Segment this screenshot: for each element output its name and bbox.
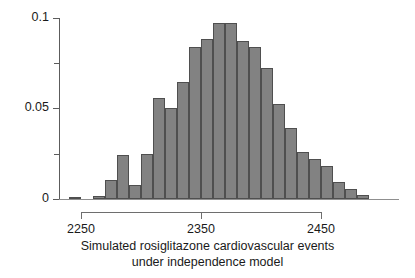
histogram-bar: [309, 159, 321, 199]
histogram-bar: [153, 98, 165, 199]
histogram-bar: [117, 155, 129, 199]
x-axis-label-2350: 2350: [171, 222, 231, 236]
y-axis-line: [59, 18, 60, 200]
y-axis-label-0.1: 0.1: [32, 11, 49, 23]
histogram-bar: [273, 104, 285, 199]
histogram-bar: [321, 166, 333, 199]
y-tick-0.1: [53, 18, 59, 19]
x-tick-2450: [321, 212, 322, 219]
histogram-bar: [201, 39, 213, 199]
histogram-bar: [105, 180, 117, 199]
plot-area: 0.1 0.05 0 2250 2350 2450: [0, 0, 415, 210]
histogram-bar: [177, 82, 189, 199]
x-tick-2350: [201, 212, 202, 219]
histogram-bar: [297, 152, 309, 199]
y-tick-0.05: [53, 108, 59, 109]
x-tick-2250: [81, 212, 82, 219]
caption-line-2: under independence model: [0, 255, 415, 271]
histogram-bar: [225, 23, 237, 199]
histogram-bar: [165, 108, 177, 199]
baseline: [59, 199, 399, 200]
histogram-bar: [189, 47, 201, 199]
histogram-bar: [129, 185, 141, 199]
histogram-figure: 0.1 0.05 0 2250 2350 2450 Simulated rosi…: [0, 0, 415, 278]
y-axis-label-0.05: 0.05: [25, 101, 49, 113]
histogram-bar: [249, 47, 261, 199]
histogram-bar: [261, 68, 273, 199]
histogram-bar: [141, 154, 153, 199]
x-axis-label-2450: 2450: [291, 222, 351, 236]
bar-series: [0, 0, 415, 210]
histogram-bar: [333, 182, 345, 199]
histogram-bar: [285, 128, 297, 199]
y-tick-0.075: [54, 63, 59, 64]
x-axis-caption: Simulated rosiglitazone cardiovascular e…: [0, 239, 415, 270]
x-axis-label-2250: 2250: [51, 222, 111, 236]
y-axis-label-0: 0: [42, 192, 49, 204]
histogram-bar: [237, 41, 249, 199]
y-tick-0.025: [54, 154, 59, 155]
histogram-bar: [213, 23, 225, 199]
caption-line-1: Simulated rosiglitazone cardiovascular e…: [0, 239, 415, 255]
histogram-bar: [345, 189, 357, 199]
